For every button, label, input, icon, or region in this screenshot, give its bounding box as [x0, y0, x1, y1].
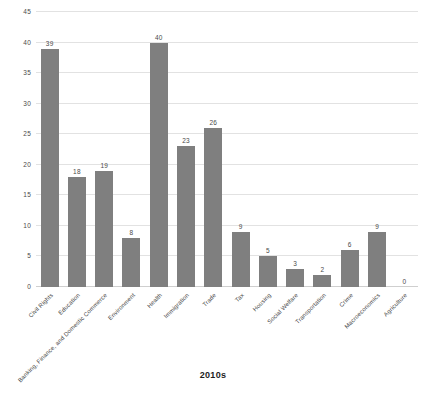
bar-value-label: 9: [375, 223, 379, 230]
plot-area: 051015202530354045 39181984023269532690: [36, 12, 418, 287]
bar-group[interactable]: 8: [118, 12, 145, 287]
x-axis-tick-label: Crime: [338, 292, 354, 308]
bar-group[interactable]: 19: [91, 12, 118, 287]
x-axis-tick-label: Agriculture: [383, 292, 409, 318]
bar-value-label: 18: [73, 168, 81, 175]
bar[interactable]: [368, 232, 386, 287]
bar-group[interactable]: 6: [336, 12, 363, 287]
bar-value-label: 3: [293, 260, 297, 267]
bar-group[interactable]: 23: [172, 12, 199, 287]
bar-group[interactable]: 18: [63, 12, 90, 287]
y-axis-tick-label: 45: [23, 8, 31, 15]
x-axis-tick-label: Education: [57, 292, 81, 316]
x-axis-tick-label: Housing: [252, 292, 273, 313]
bar-value-label: 26: [210, 119, 218, 126]
bar-group[interactable]: 39: [36, 12, 63, 287]
bar[interactable]: [41, 49, 59, 287]
bar-value-label: 40: [155, 34, 163, 41]
bar-group[interactable]: 40: [145, 12, 172, 287]
y-axis-tick-label: 25: [23, 130, 31, 137]
y-axis-tick-label: 40: [23, 38, 31, 45]
bar-value-label: 19: [100, 162, 108, 169]
y-axis-tick-label: 10: [23, 221, 31, 228]
y-axis-tick-label: 5: [27, 252, 31, 259]
bar-value-label: 9: [239, 223, 243, 230]
bar-value-label: 5: [266, 247, 270, 254]
bar[interactable]: [122, 238, 140, 287]
bar-group[interactable]: 3: [282, 12, 309, 287]
bar-group[interactable]: 26: [200, 12, 227, 287]
bar-value-label: 6: [348, 241, 352, 248]
bar-value-label: 8: [130, 229, 134, 236]
bar-value-label: 23: [182, 137, 190, 144]
y-axis-tick-label: 0: [27, 283, 31, 290]
chart-title: 2010s: [0, 370, 426, 380]
bar-group[interactable]: 9: [227, 12, 254, 287]
bar[interactable]: [286, 269, 304, 287]
x-axis-tick-label: Environment: [107, 292, 136, 321]
y-axis-tick-label: 30: [23, 99, 31, 106]
bar[interactable]: [177, 146, 195, 287]
bar[interactable]: [150, 43, 168, 287]
bar-value-label: 0: [402, 278, 406, 285]
bar[interactable]: [95, 171, 113, 287]
bar-group[interactable]: 2: [309, 12, 336, 287]
bar[interactable]: [68, 177, 86, 287]
y-axis-tick-label: 35: [23, 69, 31, 76]
x-axis-tick-label: Immigration: [163, 292, 191, 320]
bar[interactable]: [341, 250, 359, 287]
bar-group[interactable]: 9: [363, 12, 390, 287]
bar[interactable]: [313, 275, 331, 287]
y-axis-tick-label: 15: [23, 191, 31, 198]
bar-series: 39181984023269532690: [36, 12, 418, 287]
x-axis-tick-label: Health: [146, 292, 163, 309]
y-axis-tick-label: 20: [23, 160, 31, 167]
bar[interactable]: [204, 128, 222, 287]
bar-group[interactable]: 5: [254, 12, 281, 287]
x-axis-tick-label: Civil Rights: [27, 292, 54, 319]
bar[interactable]: [259, 256, 277, 287]
x-axis-tick-label: Transportation: [294, 292, 327, 325]
bar-value-label: 2: [321, 266, 325, 273]
x-axis-labels: Civil RightsEducationBanking, Finance, a…: [36, 290, 418, 362]
bar[interactable]: [232, 232, 250, 287]
bar-chart: 051015202530354045 39181984023269532690 …: [0, 0, 426, 400]
bar-group[interactable]: 0: [391, 12, 418, 287]
bar-value-label: 39: [46, 40, 54, 47]
x-axis-tick-label: Tax: [234, 292, 245, 303]
x-axis-tick-label: Trade: [202, 292, 218, 308]
